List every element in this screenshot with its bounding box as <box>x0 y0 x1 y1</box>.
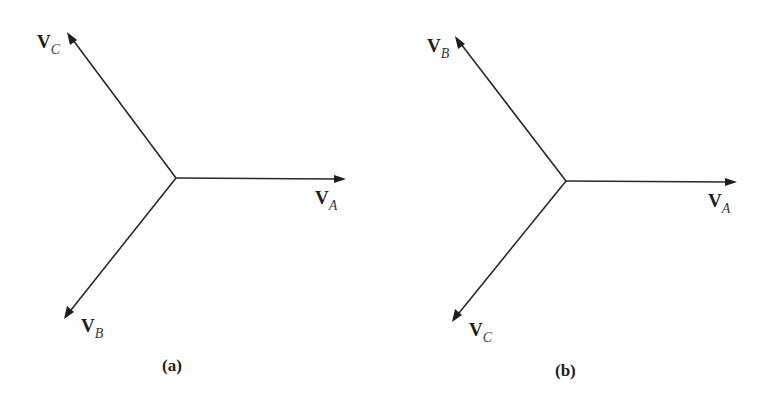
label-b-vb: VB <box>427 35 450 61</box>
phasor-a-va-line <box>176 178 337 179</box>
label-b-vc: VC <box>469 319 493 345</box>
label-a-va: VA <box>315 187 338 213</box>
label-a-vc: VC <box>37 31 61 57</box>
phasor-diagram-canvas: VA VC VB (a) VA VB VC (b) <box>0 0 771 395</box>
label-b-va: VA <box>708 190 731 216</box>
panel-a: VA VC VB (a) <box>37 31 346 375</box>
caption-a: (a) <box>162 356 182 375</box>
phasor-b-vb-line <box>461 44 566 181</box>
arrowhead-icon <box>334 175 346 183</box>
phasor-a-vb-line <box>71 178 176 310</box>
label-a-vb: VB <box>81 315 104 341</box>
phasor-b-va-line <box>566 181 728 182</box>
panel-b: VA VB VC (b) <box>427 35 737 380</box>
arrowhead-icon <box>725 178 737 186</box>
caption-b: (b) <box>555 361 576 380</box>
phasor-a-vc-line <box>73 40 176 178</box>
phasor-b-vc-line <box>459 181 566 313</box>
